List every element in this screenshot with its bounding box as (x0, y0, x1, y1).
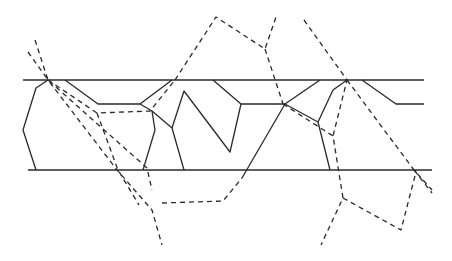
dash-right-tail (414, 170, 432, 193)
cell-2-right (140, 104, 155, 170)
dash-left-a (35, 40, 162, 245)
cell-5-right (318, 80, 347, 122)
right-cell (362, 80, 424, 104)
cell-4-top (213, 80, 285, 104)
cell-3-left (152, 111, 184, 170)
dash-mid-right (283, 104, 343, 245)
dash-left-b (28, 52, 152, 190)
dash-center-lower (162, 178, 242, 203)
dash-upper-a (97, 113, 139, 205)
diagram-canvas (0, 0, 452, 261)
dashed-crossing-lines (28, 17, 432, 245)
dash-center-loop (175, 17, 276, 80)
cell-5-left (285, 104, 330, 170)
dash-right-lower (347, 80, 432, 190)
solid-cell-outlines (23, 80, 424, 178)
dash-center-down (265, 49, 283, 104)
dash-right-loop (343, 170, 416, 230)
cell-4-right (285, 80, 320, 104)
bold-diagonal (242, 104, 285, 178)
zigzag (172, 91, 241, 152)
left-cell (23, 80, 48, 170)
cell-2-top (65, 80, 172, 104)
dash-left-c (48, 80, 175, 113)
